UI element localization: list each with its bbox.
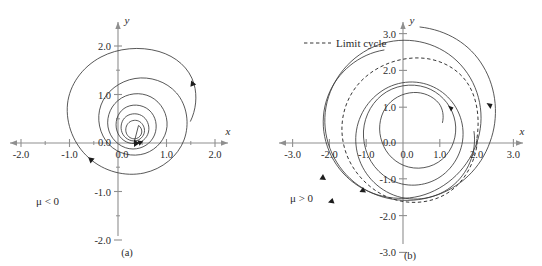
parameter-label: μ < 0: [36, 195, 60, 207]
x-axis-arrowhead: [516, 140, 523, 145]
x-ticklabel--1.0: -1.0: [358, 149, 375, 160]
x-ticklabel-1.0: 1.0: [160, 149, 173, 160]
y-axis-arrowhead: [400, 22, 405, 29]
panel-a-trajectories: [67, 48, 196, 174]
y-ticklabel--1.0: -1.0: [379, 174, 396, 185]
y-ticklabel-3.0: 3.0: [383, 29, 396, 40]
x-axis-name: x: [519, 125, 525, 137]
x-ticklabel-0.0: 0.0: [115, 149, 128, 160]
trajectory-inner-outward: [356, 82, 475, 199]
x-ticklabel-3.0: 3.0: [507, 149, 520, 160]
y-axis-arrowhead: [115, 22, 120, 29]
trajectory-inward-spiral: [67, 48, 196, 174]
direction-arrow-inner-upperright: [448, 106, 454, 112]
y-ticklabel--2.0: -2.0: [94, 235, 111, 246]
x-ticklabel-2.0: 2.0: [470, 149, 483, 160]
direction-arrow-outer-lowerleft: [328, 198, 335, 204]
x-ticklabel--1.0: -1.0: [61, 149, 78, 160]
panel-b-plot: Limit cycle -3.0 -2.0 -1.0 0.0 1.0 2.0 3…: [271, 0, 542, 266]
panel-b-labels: -3.0 -2.0 -1.0 0.0 1.0 2.0 3.0 3.0 2.0 1…: [284, 14, 524, 262]
trajectory-outer-inward: [323, 27, 495, 200]
y-ticklabel-2.0: 2.0: [98, 41, 111, 52]
y-ticklabel-0.0: 0.0: [98, 137, 111, 148]
x-ticklabel-1.0: 1.0: [433, 149, 446, 160]
direction-arrow-2: [88, 157, 94, 163]
y-axis-name: y: [124, 14, 130, 26]
x-ticklabel--2.0: -2.0: [13, 149, 30, 160]
y-axis-name: y: [409, 14, 415, 26]
x-axis-arrowhead-left: [10, 140, 17, 145]
x-axis-arrowhead-left: [279, 140, 286, 145]
x-axis-arrowhead: [221, 140, 228, 145]
panel-b-legend[interactable]: Limit cycle: [304, 37, 387, 49]
x-ticklabel--3.0: -3.0: [284, 149, 301, 160]
direction-arrow-outer-left: [320, 174, 327, 180]
y-ticklabel--1.0: -1.0: [94, 187, 111, 198]
x-ticklabel-0.0: 0.0: [400, 149, 413, 160]
legend-label-limit-cycle: Limit cycle: [336, 37, 387, 49]
panel-b-trajectories: [320, 27, 496, 204]
y-ticklabel-2.0: 2.0: [383, 65, 396, 76]
x-ticklabel-2.0: 2.0: [208, 149, 221, 160]
panel-a: -2.0 -1.0 0.0 1.0 2.0 2.0 1.0 0.0 -1.0 -…: [0, 0, 271, 266]
panel-a-labels: -2.0 -1.0 0.0 1.0 2.0 2.0 1.0 0.0 -1.0 -…: [13, 14, 231, 259]
y-ticklabel-1.0: 1.0: [98, 90, 111, 101]
parameter-label: μ > 0: [290, 192, 314, 204]
x-ticklabel--2.0: -2.0: [321, 149, 338, 160]
panel-b: Limit cycle -3.0 -2.0 -1.0 0.0 1.0 2.0 3…: [271, 0, 542, 266]
panel-a-plot: -2.0 -1.0 0.0 1.0 2.0 2.0 1.0 0.0 -1.0 -…: [0, 0, 271, 266]
y-ticklabel--2.0: -2.0: [379, 211, 396, 222]
y-ticklabel--3.0: -3.0: [379, 247, 396, 258]
panel-caption-b: (b): [404, 250, 417, 262]
y-ticklabel-1.0: 1.0: [383, 102, 396, 113]
y-ticklabel-0.0: 0.0: [383, 137, 396, 148]
figure-container: -2.0 -1.0 0.0 1.0 2.0 2.0 1.0 0.0 -1.0 -…: [0, 0, 542, 266]
direction-arrow-outer-right: [487, 103, 493, 109]
x-axis-name: x: [225, 125, 231, 137]
panel-a-axes: [10, 22, 228, 240]
panel-b-axes: [279, 22, 523, 252]
panel-caption-a: (a): [121, 247, 133, 259]
